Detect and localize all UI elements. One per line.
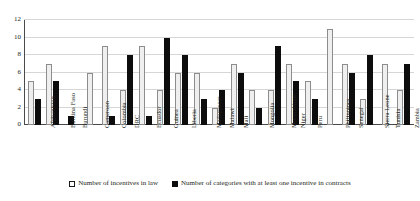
- category-label-slot: Guinea: [154, 126, 172, 174]
- bar-incentives-in-law: [327, 29, 333, 125]
- bar-group: [247, 20, 265, 125]
- category-label: Mongolia: [269, 103, 275, 128]
- category-label-slot: Peru: [302, 126, 320, 174]
- category-label: Zambia: [414, 108, 420, 128]
- bar-categories-in-contracts: [164, 38, 170, 126]
- bar-group: [25, 20, 43, 125]
- category-label: Sierra Leone: [383, 94, 389, 128]
- category-label-slot: Liberia: [173, 126, 191, 174]
- category-label-slot: Burkina Faso: [43, 126, 61, 174]
- category-label-slot: Mongolia: [247, 126, 265, 174]
- bar-incentives-in-law: [249, 90, 255, 125]
- category-label: Afghanistan: [50, 96, 56, 128]
- y-axis-tick-label: 10: [14, 33, 21, 40]
- bar-categories-in-contracts: [146, 116, 152, 125]
- category-label: Burundi: [82, 107, 88, 128]
- category-label: Madagascar: [216, 97, 222, 128]
- category-label-slot: DRC: [117, 126, 135, 174]
- category-label: Colombia: [121, 102, 127, 128]
- bar-incentives-in-law: [28, 81, 34, 125]
- category-label-slot: Afghanistan: [25, 126, 43, 174]
- category-label: Senegal: [359, 107, 365, 128]
- category-label-slot: Malawi: [210, 126, 228, 174]
- bar-categories-in-contracts: [35, 99, 41, 125]
- category-label-slot: Sierra Leone: [357, 126, 375, 174]
- category-label-slot: Zambia: [394, 126, 412, 174]
- category-label: Cameroon: [103, 101, 109, 128]
- bar-categories-in-contracts: [275, 46, 281, 125]
- y-axis-tick-label: 6: [18, 68, 22, 75]
- category-label: Mozambique: [291, 94, 297, 128]
- bar-group: [321, 20, 339, 125]
- bar-categories-in-contracts: [404, 64, 410, 125]
- category-label: Ecuador: [156, 106, 162, 128]
- bar-group: [302, 20, 320, 125]
- y-axis-tick-label: 4: [18, 86, 22, 93]
- category-label-slot: Burundi: [62, 126, 80, 174]
- category-label: Burkina Faso: [70, 93, 76, 128]
- category-label-slot: Tunisia: [376, 126, 394, 174]
- bar-chart-figure: 024681012 AfghanistanBurkina FasoBurundi…: [0, 0, 420, 201]
- bar-group: [136, 20, 154, 125]
- category-label-slot: Mozambique: [265, 126, 283, 174]
- filled-square-marker-icon: [172, 181, 178, 187]
- category-axis-labels: AfghanistanBurkina FasoBurundiCameroonCo…: [24, 126, 414, 174]
- category-label-slot: Ecuador: [136, 126, 154, 174]
- open-square-marker-icon: [69, 181, 75, 187]
- category-label-slot: Colombia: [99, 126, 117, 174]
- bar-categories-in-contracts: [182, 55, 188, 125]
- category-label-slot: Mali: [228, 126, 246, 174]
- bar-categories-in-contracts: [256, 108, 262, 125]
- category-label-slot: Philippines: [321, 126, 339, 174]
- category-label-slot: Cameroon: [80, 126, 98, 174]
- legend-label-contracts: Number of categories with at least one i…: [181, 180, 351, 187]
- legend-item-law: Number of incentives in law: [69, 180, 158, 187]
- bar-categories-in-contracts: [367, 55, 373, 125]
- category-label-slot: Niger: [284, 126, 302, 174]
- y-axis-tick-label: 8: [18, 51, 22, 58]
- bar-incentives-in-law: [139, 46, 145, 125]
- chart-legend: Number of incentives in law Number of ca…: [0, 180, 420, 187]
- legend-label-law: Number of incentives in law: [78, 180, 158, 187]
- y-axis-tick-label: 2: [18, 103, 22, 110]
- category-label-slot: Senegal: [339, 126, 357, 174]
- bar-categories-in-contracts: [201, 99, 207, 125]
- category-label: Philippines: [344, 99, 350, 128]
- category-label-slot: Madagascar: [191, 126, 209, 174]
- y-axis-tick-label: 0: [18, 121, 22, 128]
- y-axis-tick-label: 12: [14, 16, 21, 23]
- legend-item-contracts: Number of categories with at least one i…: [172, 180, 351, 187]
